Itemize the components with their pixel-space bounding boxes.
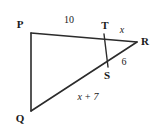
vertex-label-P: P	[17, 19, 24, 30]
vertex-label-Q: Q	[16, 113, 25, 124]
geometry-figure: P T R S Q 10 x 6 x + 7	[0, 0, 157, 131]
vertex-label-S: S	[104, 70, 110, 81]
measure-label-TR: x	[120, 25, 124, 35]
vertex-label-T: T	[101, 20, 108, 31]
measure-label-SR: 6	[122, 57, 127, 67]
vertex-label-R: R	[141, 36, 149, 47]
measure-label-PT: 10	[64, 15, 74, 25]
measure-label-QS: x + 7	[77, 92, 98, 102]
